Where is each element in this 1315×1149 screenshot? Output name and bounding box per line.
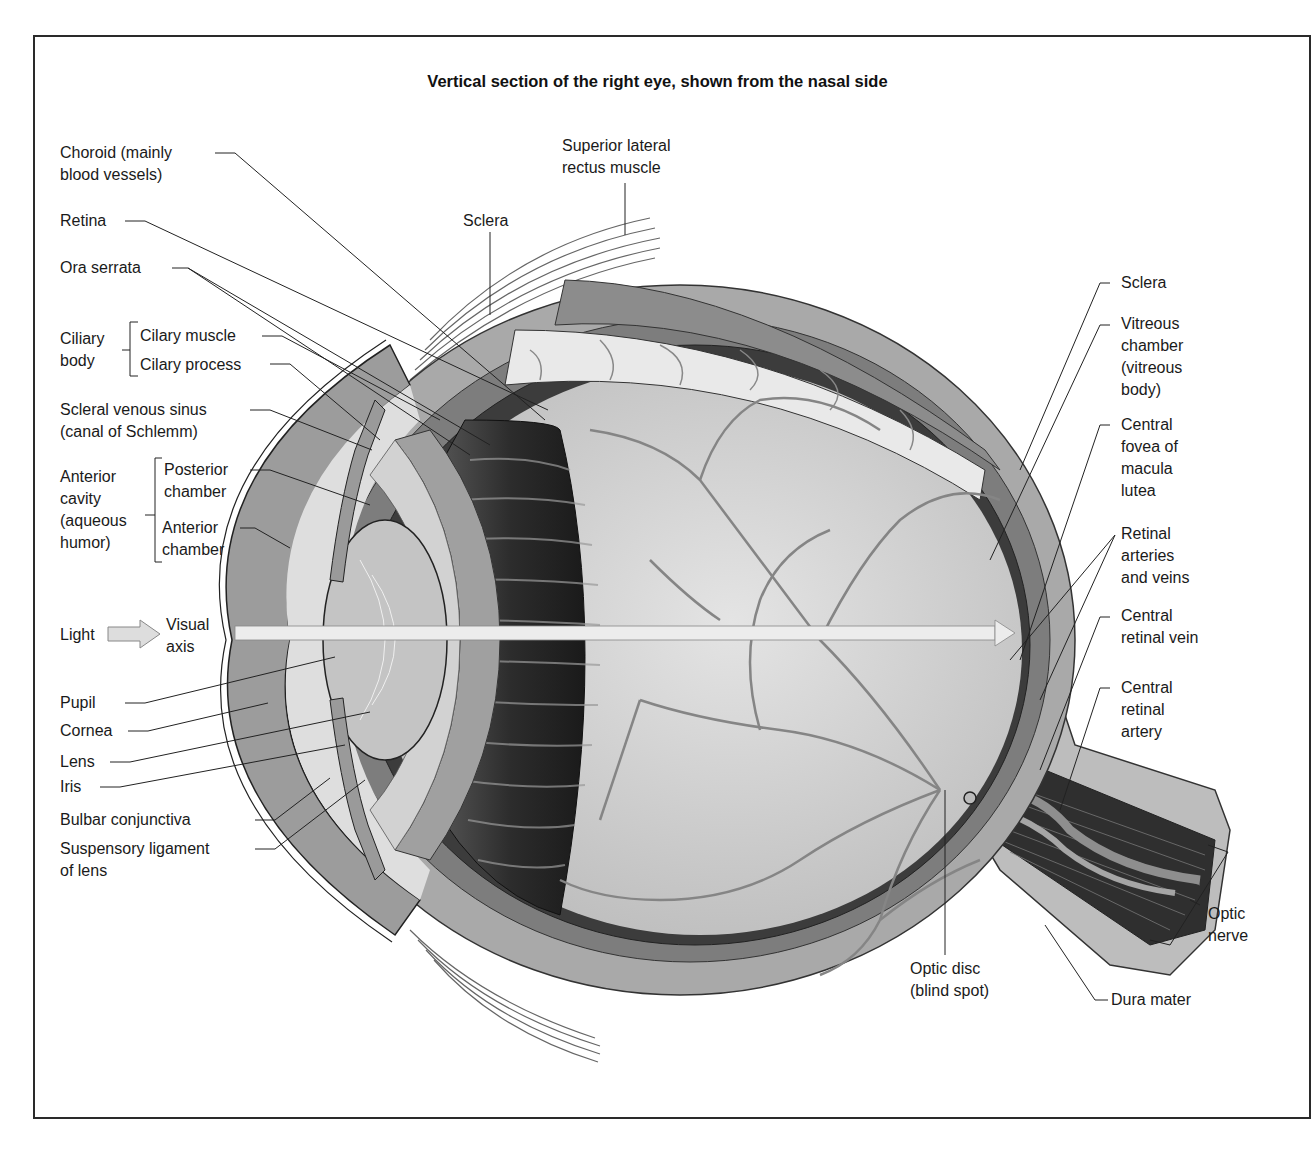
label-retinal-arteries-veins: Retinal arteries and veins xyxy=(1121,523,1190,589)
label-vitreous-chamber: Vitreous chamber (vitreous body) xyxy=(1121,313,1183,401)
label-optic-disc: Optic disc (blind spot) xyxy=(910,958,989,1002)
label-ora-serrata: Ora serrata xyxy=(60,257,141,279)
label-optic-nerve: Optic nerve xyxy=(1208,903,1248,947)
label-visual-axis: Visual axis xyxy=(166,614,209,658)
label-pupil: Pupil xyxy=(60,692,96,714)
label-ciliary-process: Cilary process xyxy=(140,354,241,376)
label-light: Light xyxy=(60,624,95,646)
label-anterior-chamber: Anterior chamber xyxy=(162,517,224,561)
label-choroid: Choroid (mainly blood vessels) xyxy=(60,142,172,186)
visual-axis-beam xyxy=(235,626,995,640)
label-iris: Iris xyxy=(60,776,81,798)
light-arrow-icon xyxy=(108,620,160,648)
optic-disc xyxy=(964,792,976,804)
label-bulbar-conjunctiva: Bulbar conjunctiva xyxy=(60,809,191,831)
label-cornea: Cornea xyxy=(60,720,112,742)
label-dura-mater: Dura mater xyxy=(1111,989,1191,1011)
label-superior-rectus: Superior lateral rectus muscle xyxy=(562,135,671,179)
label-central-retinal-vein: Central retinal vein xyxy=(1121,605,1198,649)
label-ciliary-muscle: Cilary muscle xyxy=(140,325,236,347)
label-ciliary-body: Ciliary body xyxy=(60,328,104,372)
label-scleral-venous-sinus: Scleral venous sinus (canal of Schlemm) xyxy=(60,399,207,443)
label-sclera-top: Sclera xyxy=(463,210,508,232)
label-posterior-chamber: Posterior chamber xyxy=(164,459,228,503)
label-retina: Retina xyxy=(60,210,106,232)
label-sclera-right: Sclera xyxy=(1121,272,1166,294)
label-central-fovea: Central fovea of macula lutea xyxy=(1121,414,1178,502)
label-central-retinal-artery: Central retinal artery xyxy=(1121,677,1173,743)
label-anterior-cavity: Anterior cavity (aqueous humor) xyxy=(60,466,127,554)
label-suspensory-ligament: Suspensory ligament of lens xyxy=(60,838,209,882)
label-lens: Lens xyxy=(60,751,95,773)
